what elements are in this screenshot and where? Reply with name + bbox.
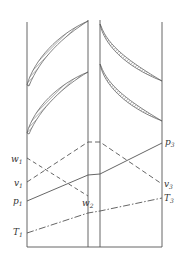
absolute-velocity-curve-v — [27, 142, 162, 184]
pressure-curve-p — [27, 143, 162, 201]
label-v1: v1 — [14, 178, 23, 189]
label-p1: p1 — [13, 196, 23, 207]
relative-velocity-curve-w — [27, 158, 88, 196]
rotor-cascade — [100, 24, 162, 121]
temperature-curve-T — [27, 198, 162, 233]
label-w1: w1 — [11, 154, 23, 165]
nozzle-cascade — [27, 21, 88, 134]
label-p3: p3 — [165, 137, 175, 148]
label-T1: T1 — [13, 227, 23, 238]
curve-labels: w1 v1 p1 T1 w2 p3 v3 T3 — [11, 137, 175, 238]
rotor-blade-1 — [100, 24, 162, 81]
label-w2: w2 — [82, 198, 94, 209]
turbine-stage-diagram: w1 v1 p1 T1 w2 p3 v3 T3 — [0, 0, 184, 266]
rotor-blade-2 — [100, 64, 162, 121]
parameter-curves — [27, 142, 162, 233]
label-T3: T3 — [164, 193, 174, 204]
label-v3: v3 — [164, 179, 173, 190]
nozzle-blade-2 — [27, 72, 88, 134]
